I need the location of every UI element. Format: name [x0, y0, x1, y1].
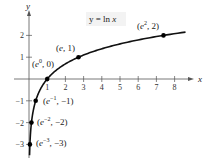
- ln-chart: 12345678 21−1−2−3 x y y = ln x (e0, 0) (…: [0, 0, 210, 164]
- y-tick-label: 2: [20, 31, 24, 40]
- y-tick-label: −1: [15, 97, 24, 106]
- x-ticks: 12345678: [45, 76, 176, 92]
- point-label-e2: (e2, 2): [137, 20, 159, 31]
- point-label-e-2: (e−2, −2): [37, 116, 67, 127]
- data-point: [28, 142, 33, 147]
- y-tick-label: −2: [15, 119, 24, 128]
- ln-curve: [30, 32, 186, 155]
- x-tick-label: 3: [82, 83, 86, 92]
- y-ticks: 21−1−2−3: [15, 31, 32, 149]
- data-point: [45, 77, 50, 82]
- y-axis-label: y: [25, 1, 30, 11]
- x-tick-label: 2: [63, 83, 67, 92]
- data-point: [33, 99, 38, 104]
- x-axis-label: x: [197, 74, 202, 84]
- point-label-e0: (e0, 0): [32, 58, 54, 69]
- x-tick-label: 1: [45, 83, 49, 92]
- data-point: [161, 33, 166, 38]
- x-tick-label: 8: [173, 83, 177, 92]
- y-tick-label: 1: [20, 53, 24, 62]
- point-label-e1: (e, 1): [56, 43, 75, 53]
- x-tick-label: 5: [118, 83, 122, 92]
- x-tick-label: 4: [100, 83, 104, 92]
- point-label-e-1: (e−1, −1): [43, 95, 73, 106]
- x-tick-label: 6: [136, 83, 140, 92]
- point-label-e-3: (e−3, −3): [36, 137, 66, 148]
- data-point: [29, 120, 34, 125]
- x-axis-arrow-icon: [188, 77, 194, 81]
- equation-label: y = ln x: [89, 14, 116, 24]
- data-point: [76, 55, 81, 60]
- x-tick-label: 7: [154, 83, 158, 92]
- y-tick-label: −3: [15, 140, 24, 149]
